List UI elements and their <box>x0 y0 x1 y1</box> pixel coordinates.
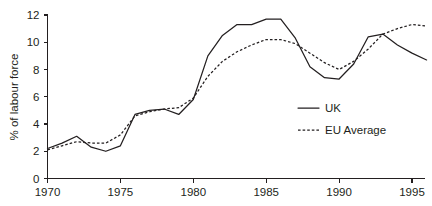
y-tick-label: 8 <box>33 64 39 76</box>
legend-label-uk: UK <box>325 102 341 114</box>
y-tick-label: 0 <box>33 173 39 185</box>
x-tick-label: 1975 <box>108 186 134 198</box>
x-tick-label: 1985 <box>253 186 279 198</box>
plot-axes <box>47 15 425 179</box>
y-axis-ticks: 024681012 <box>27 9 48 185</box>
x-axis-ticks: 197019751980198519901995 <box>35 179 425 198</box>
x-tick-label: 1990 <box>326 186 352 198</box>
x-tick-label: 1980 <box>181 186 207 198</box>
chart-canvas: 024681012 197019751980198519901995 % of … <box>0 0 432 206</box>
y-tick-label: 10 <box>27 36 40 48</box>
legend-label-eu-average: EU Average <box>325 124 386 136</box>
x-tick-label: 1995 <box>399 186 425 198</box>
chart-legend: UKEU Average <box>298 102 386 136</box>
y-tick-label: 4 <box>33 118 40 130</box>
y-axis-title: % of labour force <box>8 54 20 141</box>
y-tick-label: 6 <box>33 91 39 103</box>
y-tick-label: 12 <box>27 9 40 21</box>
unemployment-line-chart: 024681012 197019751980198519901995 % of … <box>0 0 432 206</box>
x-tick-label: 1970 <box>35 186 61 198</box>
y-tick-label: 2 <box>33 145 39 157</box>
